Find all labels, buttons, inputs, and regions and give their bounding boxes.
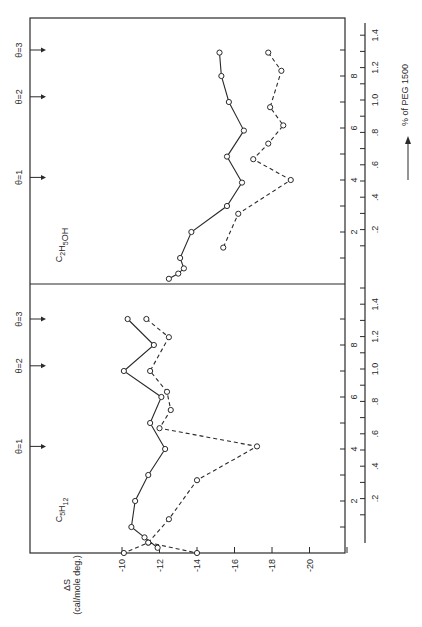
C5H12-solid-point bbox=[151, 342, 156, 347]
C5H12-solid-point bbox=[146, 472, 151, 477]
C2H5OH-solid-point bbox=[241, 128, 246, 133]
C2H5OH-solid-point bbox=[239, 180, 244, 185]
x-outer-tick-label: 1.0 bbox=[370, 363, 380, 376]
C2H5OH-solid-point bbox=[226, 99, 231, 104]
C5H12-solid-line bbox=[124, 319, 165, 548]
C5H12-solid-point bbox=[121, 368, 126, 373]
x-outer-tick-label: 1.2 bbox=[370, 330, 380, 343]
chart: -10-12-14-16-18-202468.2.4.6.81.01.21.4θ… bbox=[0, 0, 422, 627]
panel-label: C2H5OH bbox=[54, 228, 70, 262]
x-outer-tick-label: .6 bbox=[370, 161, 380, 169]
C5H12-dashed-point bbox=[164, 389, 169, 394]
C2H5OH-dashed-point bbox=[279, 68, 284, 73]
x-outer-tick-label: 1.4 bbox=[370, 29, 380, 42]
C2H5OH-dashed-point bbox=[266, 50, 271, 55]
C2H5OH-dashed-point bbox=[221, 245, 226, 250]
y-axis-title: ΔS bbox=[62, 579, 72, 591]
theta-arrow-head-icon bbox=[41, 317, 46, 322]
C5H12-solid-point bbox=[129, 524, 134, 529]
x-outer-tick-label: .8 bbox=[370, 129, 380, 137]
C2H5OH-solid-point bbox=[166, 276, 171, 281]
C5H12-dashed-point bbox=[144, 316, 149, 321]
x-axis-title: % of PEG 1500 bbox=[400, 64, 410, 126]
x-axis-arrow-icon bbox=[405, 136, 411, 144]
x-inner-tick-label: 2 bbox=[349, 229, 359, 234]
axis-labels: -10-12-14-16-18-202468.2.4.6.81.01.21.4θ… bbox=[14, 29, 411, 615]
x-outer-tick-label: .2 bbox=[370, 495, 380, 503]
C5H12-dashed-point bbox=[254, 444, 259, 449]
C5H12-dashed-point bbox=[168, 407, 173, 412]
y-tick-label: -10 bbox=[117, 559, 127, 572]
x-inner-tick-label: 4 bbox=[349, 446, 359, 451]
x-inner-tick-label: 6 bbox=[349, 394, 359, 399]
theta-label: θ=3 bbox=[14, 311, 24, 326]
x-outer-tick-label: 1.4 bbox=[370, 298, 380, 311]
x-outer-tick-label: .8 bbox=[370, 398, 380, 406]
theta-label: θ=2 bbox=[14, 89, 24, 104]
C5H12-solid-point bbox=[159, 394, 164, 399]
C2H5OH-solid-point bbox=[219, 73, 224, 78]
y-tick-label: -12 bbox=[155, 559, 165, 572]
C2H5OH-solid-line bbox=[169, 53, 244, 279]
theta-arrow-head-icon bbox=[41, 48, 46, 53]
plot-frame bbox=[30, 18, 365, 553]
C5H12-solid-point bbox=[125, 316, 130, 321]
C5H12-dashed-end-point bbox=[146, 540, 151, 545]
C5H12-solid-point bbox=[133, 498, 138, 503]
C5H12-dashed-end-point bbox=[194, 550, 199, 555]
C5H12-dashed-point bbox=[194, 478, 199, 483]
theta-arrow-head-icon bbox=[41, 175, 46, 180]
theta-label: θ=1 bbox=[14, 439, 24, 454]
C2H5OH-solid-point bbox=[178, 255, 183, 260]
C5H12-dashed-point bbox=[166, 335, 171, 340]
y-tick-label: -18 bbox=[267, 559, 277, 572]
y-tick-label: -16 bbox=[230, 559, 240, 572]
C2H5OH-dashed-point bbox=[281, 123, 286, 128]
C2H5OH-dashed-point bbox=[288, 177, 293, 182]
C5H12-dashed-point bbox=[121, 550, 126, 555]
y-axis-units: (cal/mole deg.) bbox=[72, 555, 82, 615]
C2H5OH-dashed-point bbox=[266, 141, 271, 146]
x-inner-tick-label: 6 bbox=[349, 125, 359, 130]
plot-border bbox=[30, 18, 345, 553]
panel-label: C5H12 bbox=[54, 498, 69, 523]
C5H12-dashed-point bbox=[148, 368, 153, 373]
x-inner-tick-label: 4 bbox=[349, 177, 359, 182]
x-outer-tick-label: 1.2 bbox=[370, 61, 380, 74]
x-outer-tick-label: .2 bbox=[370, 226, 380, 234]
C2H5OH-solid-point bbox=[189, 229, 194, 234]
C2H5OH-dashed-point bbox=[251, 157, 256, 162]
x-outer-tick-label: .4 bbox=[370, 462, 380, 470]
C2H5OH-solid-point bbox=[176, 271, 181, 276]
C2H5OH-solid-point bbox=[224, 203, 229, 208]
C5H12-solid-point bbox=[155, 545, 160, 550]
C5H12-solid-point bbox=[148, 420, 153, 425]
C5H12-dashed-point bbox=[166, 517, 171, 522]
theta-arrow-head-icon bbox=[41, 94, 46, 99]
x-outer-tick-label: .4 bbox=[370, 193, 380, 201]
theta-arrow-head-icon bbox=[41, 363, 46, 368]
theta-arrow-head-icon bbox=[41, 444, 46, 449]
x-outer-tick-label: 1.0 bbox=[370, 94, 380, 107]
y-tick-label: -14 bbox=[192, 559, 202, 572]
C5H12-dashed-point bbox=[157, 426, 162, 431]
C2H5OH-solid-point bbox=[181, 266, 186, 271]
C2H5OH-dashed-point bbox=[236, 211, 241, 216]
C2H5OH-solid-point bbox=[224, 154, 229, 159]
C2H5OH-dashed-line bbox=[223, 53, 291, 248]
theta-label: θ=3 bbox=[14, 42, 24, 57]
x-outer-tick-label: .6 bbox=[370, 430, 380, 438]
x-inner-tick-label: 2 bbox=[349, 498, 359, 503]
C2H5OH-solid-point bbox=[217, 50, 222, 55]
C5H12-solid-point bbox=[142, 535, 147, 540]
axis-ticks bbox=[30, 35, 365, 553]
data-series bbox=[121, 50, 293, 556]
x-inner-tick-label: 8 bbox=[349, 342, 359, 347]
theta-label: θ=1 bbox=[14, 170, 24, 185]
C2H5OH-dashed-point bbox=[268, 105, 273, 110]
y-tick-label: -20 bbox=[305, 559, 315, 572]
C5H12-solid-point bbox=[163, 446, 168, 451]
x-inner-tick-label: 8 bbox=[349, 73, 359, 78]
theta-label: θ=2 bbox=[14, 358, 24, 373]
